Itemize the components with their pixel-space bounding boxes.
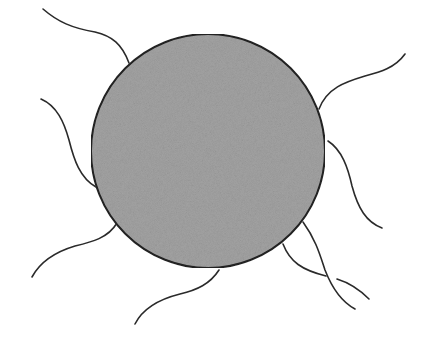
strand-bottom-right-a xyxy=(303,222,355,309)
strand-fragment xyxy=(337,279,369,299)
strand-left xyxy=(41,99,96,187)
diagram-canvas xyxy=(0,0,428,348)
sphere-body xyxy=(91,34,325,268)
strand-right xyxy=(328,141,382,228)
strand-lower-left xyxy=(32,223,117,277)
diagram-figure: Gray filled sphere with wavy strands (fl… xyxy=(0,0,428,348)
strand-bottom xyxy=(135,270,219,324)
strand-top-right xyxy=(319,54,405,109)
strand-bottom-right-b xyxy=(283,244,326,276)
strand-top-left xyxy=(43,9,129,63)
